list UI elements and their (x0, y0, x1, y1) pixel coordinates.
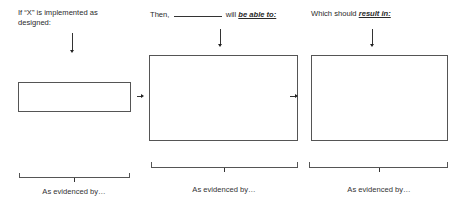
evidence-label-3: As evidenced by… (329, 185, 429, 194)
input-box-1[interactable] (18, 82, 131, 112)
input-box-2[interactable] (149, 55, 298, 141)
column-2-prompt-lead: Then, (150, 10, 172, 19)
evidence-label-1: As evidenced by… (24, 187, 124, 196)
column-3-prompt: Which should result in: (311, 9, 391, 19)
brace-tick-1 (74, 178, 75, 182)
brace-tick-2 (224, 168, 225, 172)
evidence-label-2: As evidenced by… (174, 185, 274, 194)
column-1-prompt-text: If “X” is implemented as designed: (18, 8, 98, 27)
column-2-prompt: Then, will be able to: (150, 9, 276, 20)
column-1-prompt: If “X” is implemented as designed: (18, 8, 128, 28)
fill-in-blank[interactable] (174, 9, 222, 17)
brace-tick-3 (379, 168, 380, 172)
column-2-prompt-emphasis: be able to: (238, 10, 276, 19)
column-3-prompt-lead: Which should (311, 9, 359, 18)
column-2-prompt-mid: will (224, 10, 239, 19)
column-3-prompt-emphasis: result in: (359, 9, 391, 18)
input-box-3[interactable] (311, 55, 448, 141)
